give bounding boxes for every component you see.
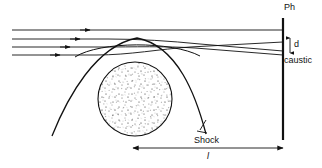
shock-label: Shock <box>194 136 219 145</box>
ray-direction-arrows <box>50 30 90 55</box>
photographic-plate-label: Ph <box>284 3 295 12</box>
incident-ray-4 <box>12 42 283 55</box>
diagram-canvas <box>0 0 322 168</box>
standoff-length-label: l <box>207 152 209 161</box>
incident-ray-group <box>12 30 283 55</box>
caustic-label: caustic <box>284 56 312 65</box>
caustic-width-label: d <box>294 40 299 49</box>
shadowgraph-ray-diagram: Ph d caustic Shock l <box>0 0 322 168</box>
sphere-group <box>98 62 172 136</box>
